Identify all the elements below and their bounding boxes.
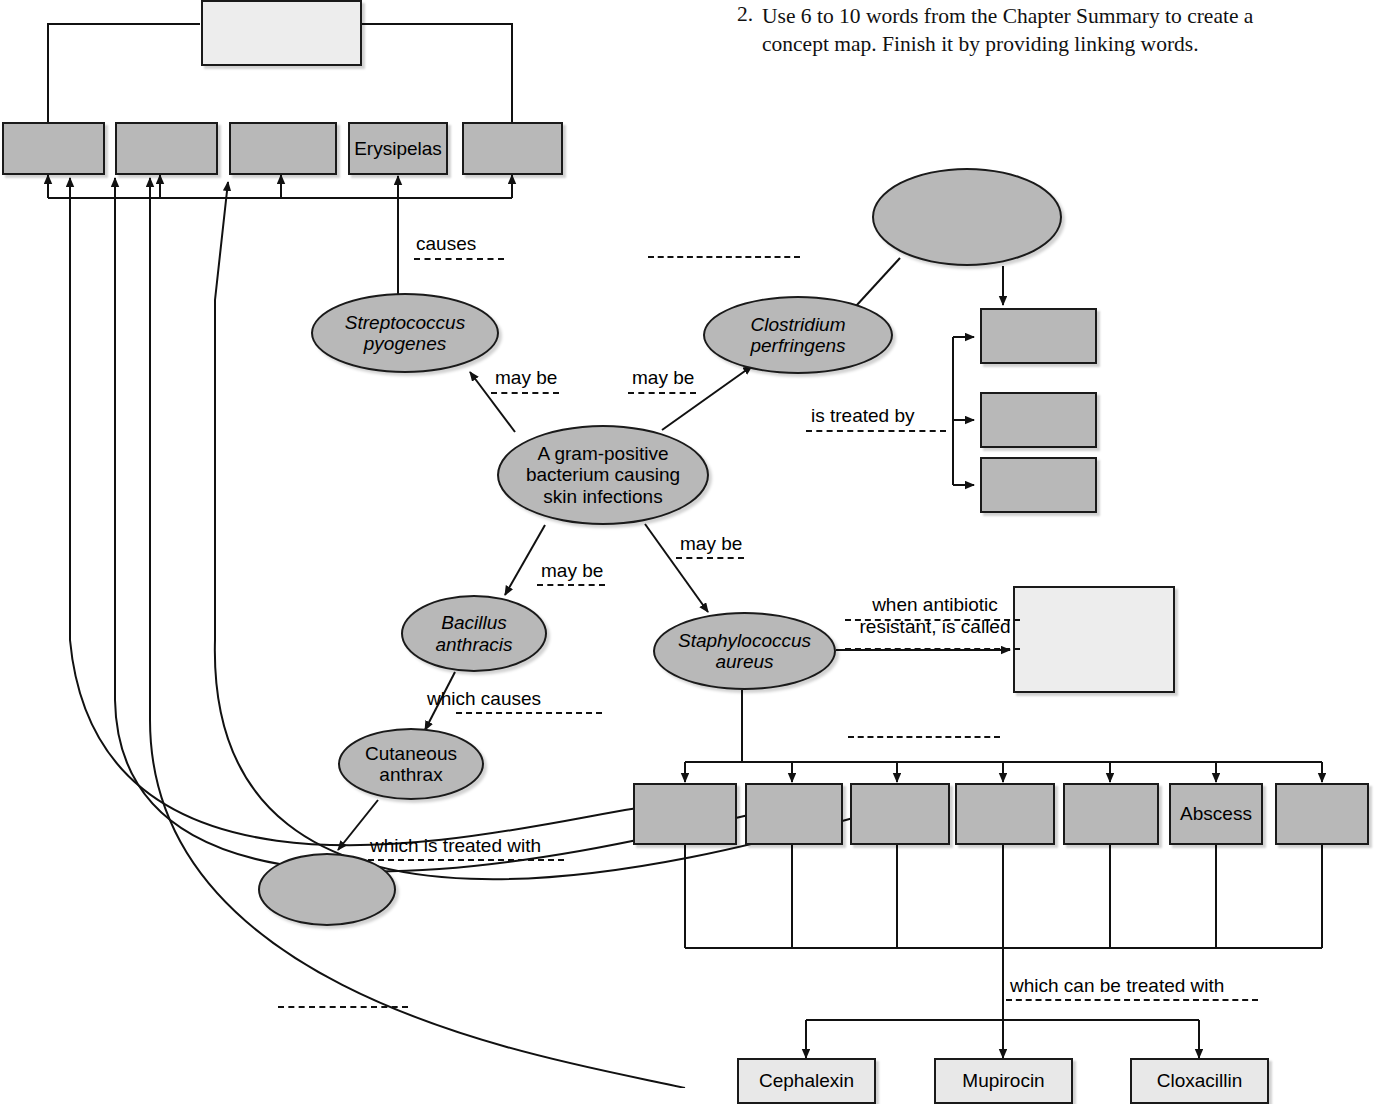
top-right-blank-ellipse[interactable] xyxy=(872,168,1062,266)
blankline-may-be-strep[interactable] xyxy=(491,392,559,394)
blankline-causes[interactable] xyxy=(414,258,504,260)
blankline-above-clostridium[interactable] xyxy=(648,256,800,258)
staph-condition-box-5[interactable] xyxy=(1063,783,1159,845)
blankline-when-antibiotic-resistant-2[interactable] xyxy=(845,648,1020,650)
linkword-which-is-treated-with: which is treated with xyxy=(370,835,541,857)
staph-condition-box-abscess[interactable]: Abscess xyxy=(1169,783,1263,845)
mrsa-blank-box[interactable] xyxy=(1013,586,1175,693)
linkword-is-treated-by: is treated by xyxy=(811,405,915,427)
disease-box-2[interactable] xyxy=(115,122,218,175)
linkword-may-be-bacillus: may be xyxy=(541,560,603,582)
staph-condition-box-3[interactable] xyxy=(850,783,950,845)
treated-by-box-2[interactable] xyxy=(980,392,1097,448)
linkword-causes: causes xyxy=(416,233,476,255)
staph-condition-box-2[interactable] xyxy=(745,783,843,845)
blankline-above-staph-row[interactable] xyxy=(848,736,1000,738)
node-streptococcus-pyogenes[interactable]: Streptococcus pyogenes xyxy=(311,293,499,373)
drug-box-cephalexin[interactable]: Cephalexin xyxy=(737,1058,876,1104)
treated-by-box-3[interactable] xyxy=(980,457,1097,513)
node-staphylococcus-aureus[interactable]: Staphylococcus aureus xyxy=(653,612,836,690)
disease-box-1[interactable] xyxy=(2,122,105,175)
node-clostridium-perfringens[interactable]: Clostridium perfringens xyxy=(703,296,893,374)
node-central-gram-positive[interactable]: A gram-positive bacterium causing skin i… xyxy=(497,425,709,525)
question-text: Use 6 to 10 words from the Chapter Summa… xyxy=(762,2,1382,59)
blankline-bottom-left[interactable] xyxy=(278,1006,408,1008)
blankline-may-be-clostridium[interactable] xyxy=(628,392,696,394)
blankline-which-can-be-treated-with[interactable] xyxy=(1006,999,1258,1001)
drug-box-cloxacillin[interactable]: Cloxacillin xyxy=(1130,1058,1269,1104)
linkword-which-causes: which causes xyxy=(427,688,541,710)
staph-condition-box-7[interactable] xyxy=(1275,783,1369,845)
disease-box-3[interactable] xyxy=(229,122,337,175)
top-blank-box[interactable] xyxy=(201,0,362,66)
linkword-when-antibiotic-resistant: when antibiotic resistant, is called xyxy=(845,594,1025,638)
blankline-is-treated-by[interactable] xyxy=(806,430,946,432)
linkword-may-be-staph: may be xyxy=(680,533,742,555)
blankline-may-be-bacillus[interactable] xyxy=(537,584,605,586)
staph-condition-box-1[interactable] xyxy=(633,783,737,845)
linkword-may-be-strep: may be xyxy=(495,367,557,389)
treated-by-box-1[interactable] xyxy=(980,308,1097,364)
disease-box-5[interactable] xyxy=(462,122,563,175)
staph-condition-box-4[interactable] xyxy=(955,783,1055,845)
node-cutaneous-anthrax[interactable]: Cutaneous anthrax xyxy=(338,728,484,800)
anthrax-treatment-blank-ellipse[interactable] xyxy=(258,853,396,926)
question-number: 2. xyxy=(737,2,753,27)
blankline-when-antibiotic-resistant-1[interactable] xyxy=(845,619,1020,621)
drug-box-mupirocin[interactable]: Mupirocin xyxy=(934,1058,1073,1104)
blankline-which-causes[interactable] xyxy=(456,712,602,714)
disease-box-erysipelas[interactable]: Erysipelas xyxy=(348,122,448,175)
linkword-may-be-clostridium: may be xyxy=(632,367,694,389)
linkword-which-can-be-treated-with: which can be treated with xyxy=(1010,975,1224,997)
blankline-may-be-staph[interactable] xyxy=(676,557,744,559)
node-bacillus-anthracis[interactable]: Bacillus anthracis xyxy=(401,595,547,672)
blankline-which-is-treated-with[interactable] xyxy=(368,859,564,861)
